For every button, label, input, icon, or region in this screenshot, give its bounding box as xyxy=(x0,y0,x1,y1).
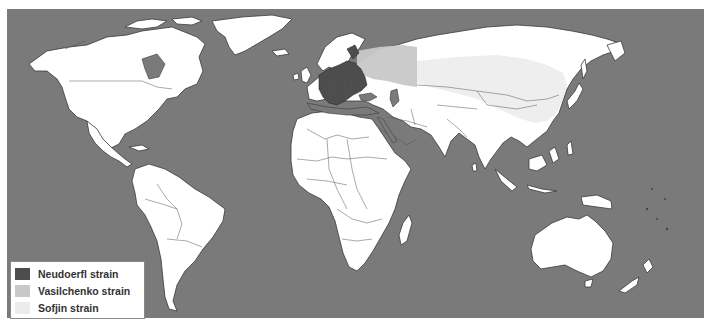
legend-label: Sofjin strain xyxy=(38,302,99,314)
greenland xyxy=(212,15,292,55)
south-america xyxy=(132,164,225,311)
sofjin-swatch xyxy=(15,302,30,314)
neudoerfl-swatch xyxy=(15,268,30,280)
map-legend: Neudoerfl strain Vasilchenko strain Sofj… xyxy=(10,261,145,319)
legend-label: Vasilchenko strain xyxy=(38,285,130,297)
north-america xyxy=(29,27,205,149)
vasilchenko-swatch xyxy=(15,285,30,297)
legend-item-vasilchenko: Vasilchenko strain xyxy=(15,284,130,298)
japan xyxy=(567,83,583,109)
legend-item-sofjin: Sofjin strain xyxy=(15,301,99,315)
legend-label: Neudoerfl strain xyxy=(38,268,119,280)
australia xyxy=(531,215,613,277)
legend-item-neudoerfl: Neudoerfl strain xyxy=(15,267,119,281)
